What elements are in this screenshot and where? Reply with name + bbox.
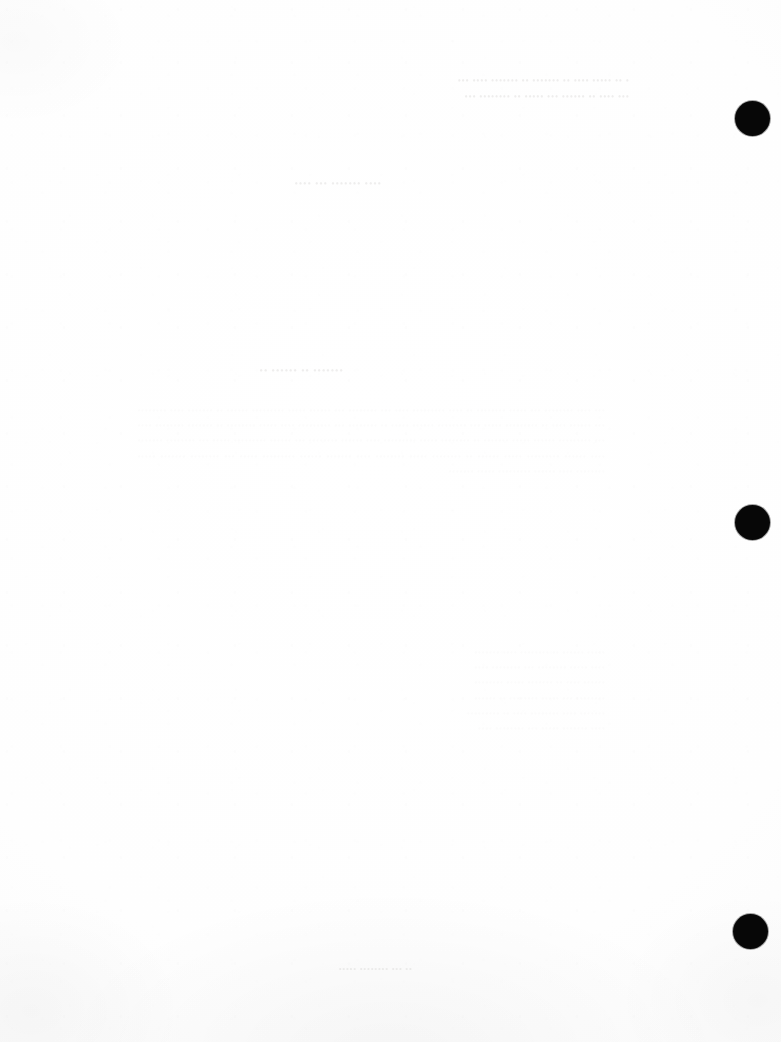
- hole-punch-mark-middle: [735, 505, 770, 540]
- paper-smudge-shading: [0, 0, 781, 1042]
- hole-punch-mark-bottom: [733, 914, 768, 949]
- scanned-page: • •• ••••• •••• •• ••••••• •• ••••••• ••…: [0, 0, 781, 1042]
- hole-punch-mark-top: [735, 101, 770, 136]
